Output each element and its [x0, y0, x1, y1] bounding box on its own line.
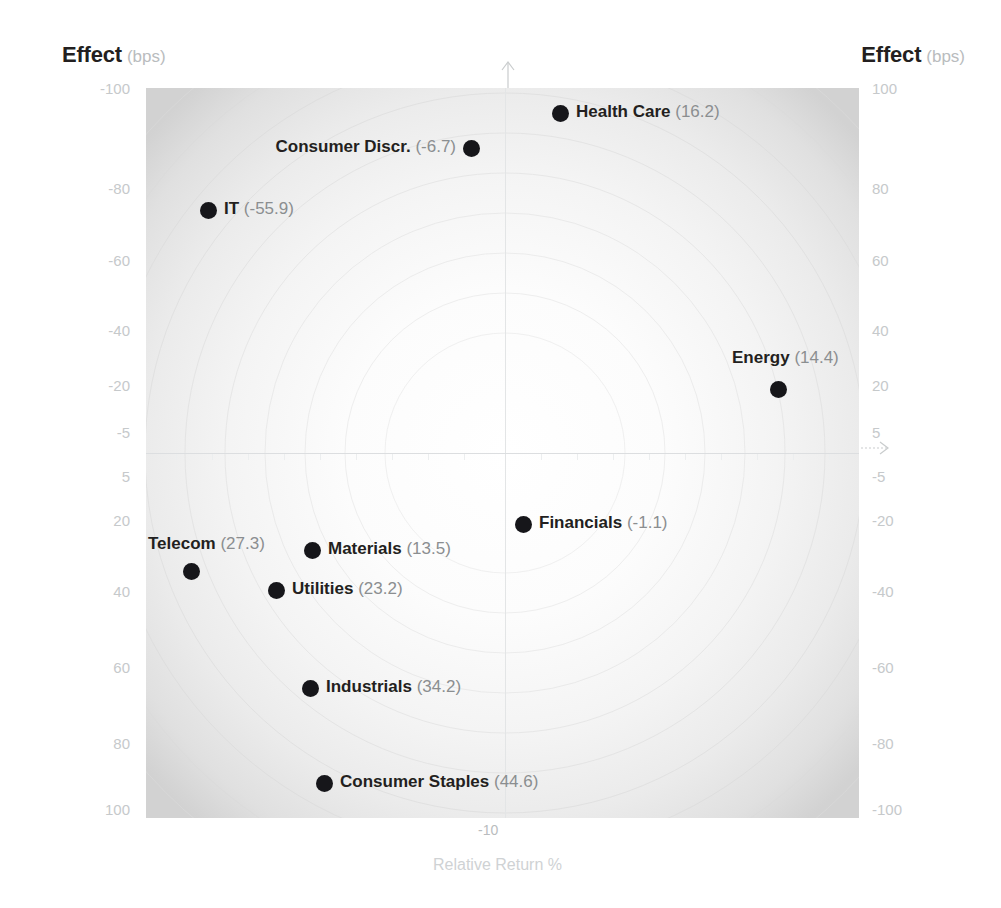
y-tick-left-5: 5 [30, 468, 130, 485]
point-label-materials: Materials (13.5) [328, 539, 451, 559]
y-tick-right-100: 100 [872, 80, 897, 97]
point-label-consumer-staples: Consumer Staples (44.6) [340, 772, 538, 792]
y-tick-left-neg60: -60 [30, 252, 130, 269]
point-label-industrials: Industrials (34.2) [326, 677, 461, 697]
y-tick-right-20: 20 [872, 377, 889, 394]
effect-header-left: Effect(bps) [62, 42, 166, 68]
y-tick-left-neg40: -40 [30, 322, 130, 339]
point-utilities[interactable] [268, 582, 285, 599]
point-telecom[interactable] [183, 563, 200, 580]
y-tick-left-60: 60 [30, 659, 130, 676]
scatter-chart-root: Effect(bps) Effect(bps) Relative Weight … [0, 0, 1001, 908]
y-tick-left-80: 80 [30, 735, 130, 752]
point-label-it: IT (-55.9) [224, 199, 294, 219]
effect-header-left-unit: (bps) [127, 47, 166, 66]
point-financials[interactable] [515, 516, 532, 533]
point-label-financials: Financials (-1.1) [539, 513, 668, 533]
y-tick-left-neg20: -20 [30, 377, 130, 394]
point-consumer-discr[interactable] [463, 140, 480, 157]
point-materials[interactable] [304, 542, 321, 559]
y-tick-right-40: 40 [872, 322, 889, 339]
point-industrials[interactable] [302, 680, 319, 697]
y-tick-right-neg60: -60 [872, 659, 894, 676]
y-tick-right-neg5: -5 [872, 468, 885, 485]
x-tick-below-axis: -10 [478, 822, 498, 838]
y-tick-right-neg40: -40 [872, 583, 894, 600]
point-label-energy: Energy (14.4) [732, 348, 839, 368]
x-axis-title: Relative Return % [433, 856, 562, 874]
y-tick-right-5: 5 [872, 424, 880, 441]
x-axis-arrow-icon [856, 438, 890, 458]
point-label-telecom: Telecom (27.3) [148, 534, 265, 554]
y-tick-right-neg100: -100 [872, 801, 902, 818]
y-tick-right-neg20: -20 [872, 512, 894, 529]
effect-header-right-title: Effect [861, 42, 921, 67]
y-tick-left-neg100: -100 [30, 80, 130, 97]
y-tick-left-neg80: -80 [30, 180, 130, 197]
point-consumer-staples[interactable] [316, 775, 333, 792]
y-tick-left-20: 20 [30, 512, 130, 529]
y-tick-left-neg5: -5 [30, 424, 130, 441]
plot-area: Health Care (16.2) Consumer Discr. (-6.7… [146, 88, 859, 818]
point-it[interactable] [200, 202, 217, 219]
y-tick-left-40: 40 [30, 583, 130, 600]
point-label-consumer-discr: Consumer Discr. (-6.7) [146, 137, 456, 157]
y-tick-right-neg80: -80 [872, 735, 894, 752]
y-tick-right-60: 60 [872, 252, 889, 269]
point-health-care[interactable] [552, 105, 569, 122]
y-tick-left-100: 100 [30, 801, 130, 818]
effect-header-right: Effect(bps) [861, 42, 965, 68]
y-tick-right-80: 80 [872, 180, 889, 197]
x-axis-tick-marks [146, 454, 859, 462]
point-label-utilities: Utilities (23.2) [292, 579, 403, 599]
effect-header-left-title: Effect [62, 42, 122, 67]
effect-header-right-unit: (bps) [926, 47, 965, 66]
point-energy[interactable] [770, 381, 787, 398]
point-label-health-care: Health Care (16.2) [576, 102, 720, 122]
